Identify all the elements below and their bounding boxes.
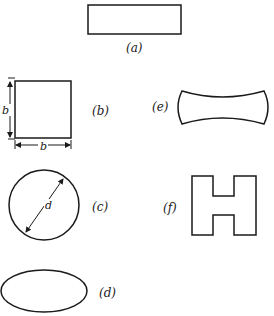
- cross-sections-figure: (a) b b (b) (e) d (c) (f) (d): [0, 0, 274, 316]
- square-shape: [15, 81, 71, 138]
- dim-label-b-vertical: b: [2, 104, 9, 117]
- shape-b: b b (b): [2, 78, 109, 153]
- shape-e: (e): [152, 91, 268, 124]
- ellipse-shape: [1, 270, 87, 312]
- label-d: (d): [99, 286, 116, 300]
- shape-d: (d): [1, 270, 116, 312]
- rectangle-shape: [88, 5, 181, 34]
- label-b: (b): [92, 104, 109, 118]
- h-section-shape: [192, 176, 256, 235]
- concave-bar-shape: [178, 91, 268, 124]
- label-a: (a): [126, 41, 143, 55]
- shape-f: (f): [163, 176, 256, 235]
- shape-c: d (c): [9, 170, 108, 240]
- label-e: (e): [152, 100, 169, 114]
- shape-a: (a): [88, 5, 181, 55]
- dim-label-d: d: [45, 199, 52, 212]
- dim-label-b-horizontal: b: [40, 140, 47, 153]
- label-f: (f): [163, 201, 177, 215]
- label-c: (c): [92, 200, 108, 214]
